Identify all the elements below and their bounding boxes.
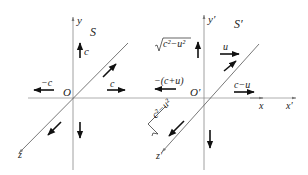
sp-frame-velocity-label: u [223, 42, 228, 52]
s-origin-label: O [63, 87, 71, 98]
sp-arrow-diag-up [224, 61, 236, 71]
s-y-axis-label: y [77, 15, 82, 26]
sp-frame-label: S′ [234, 18, 243, 30]
sp-z-axis-label: z′ [156, 151, 162, 161]
s-velocity-up-label: c [84, 46, 89, 57]
s-frame-label: S [90, 26, 96, 38]
sp-velocity-up-label: c²−u² [163, 39, 185, 49]
s-velocity-left-label: −c [41, 78, 52, 88]
sp-y-axis-label: y′ [208, 14, 215, 25]
s-arrow-diag-down [48, 122, 61, 135]
sp-x-axis-label: x [259, 101, 263, 111]
sp-x-prime-axis-label: x′ [286, 101, 293, 111]
sp-origin-label: O′ [190, 87, 200, 98]
frame-s [19, 17, 154, 170]
sp-velocity-right-label: c−u [234, 80, 250, 90]
sp-arrow-diag-down [169, 121, 184, 136]
s-z-axis-label: z [18, 150, 22, 160]
s-velocity-right-label: c [110, 79, 114, 89]
sp-velocity-left-label: −(c+u) [154, 76, 184, 86]
